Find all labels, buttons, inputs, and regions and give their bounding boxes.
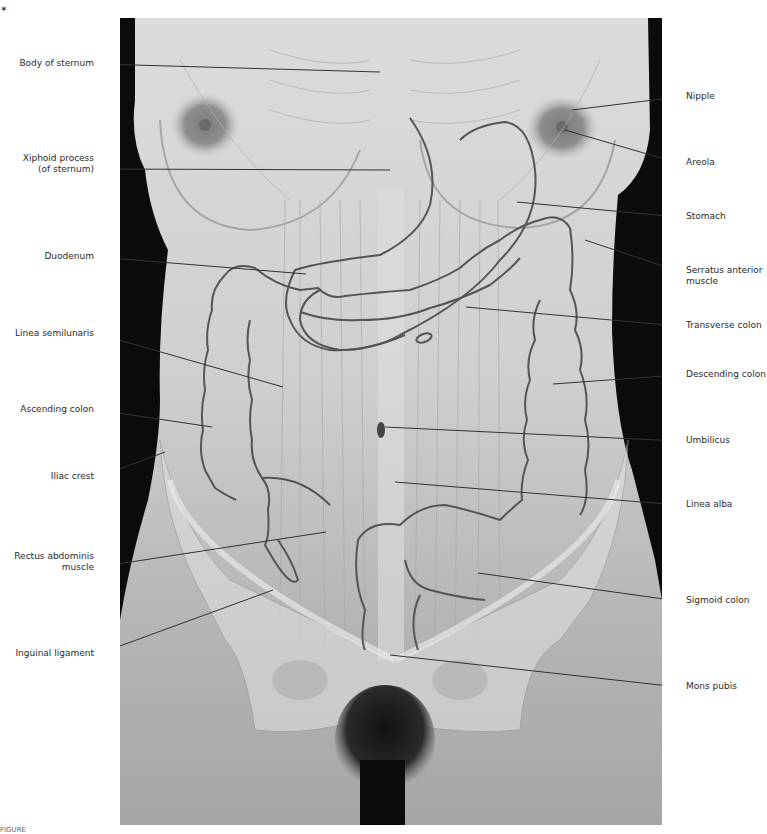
umbilicus-mark bbox=[377, 422, 385, 438]
torso-illustration bbox=[120, 18, 662, 825]
anatomy-figure: ✶ bbox=[0, 0, 767, 834]
label-transverse-colon: Transverse colon bbox=[686, 320, 762, 331]
label-serratus-anterior: Serratus anterior muscle bbox=[686, 265, 762, 287]
figure-corner-mark: ✶ bbox=[0, 4, 8, 14]
label-ascending-colon: Ascending colon bbox=[20, 404, 94, 415]
label-mons-pubis: Mons pubis bbox=[686, 681, 737, 692]
label-inguinal-ligament: Inguinal ligament bbox=[15, 648, 94, 659]
label-umbilicus: Umbilicus bbox=[686, 435, 730, 446]
label-nipple: Nipple bbox=[686, 91, 715, 102]
label-linea-alba: Linea alba bbox=[686, 499, 732, 510]
label-sigmoid-colon: Sigmoid colon bbox=[686, 595, 749, 606]
figure-caption-fragment: FIGURE bbox=[0, 826, 26, 834]
label-xiphoid-process: Xiphoid process (of sternum) bbox=[23, 153, 94, 175]
label-duodenum: Duodenum bbox=[44, 251, 94, 262]
label-linea-semilunaris: Linea semilunaris bbox=[15, 328, 94, 339]
label-areola: Areola bbox=[686, 157, 715, 168]
label-body-of-sternum: Body of sternum bbox=[19, 58, 94, 69]
label-rectus-abdominis: Rectus abdominis muscle bbox=[14, 551, 94, 573]
label-stomach: Stomach bbox=[686, 211, 726, 222]
label-descending-colon: Descending colon bbox=[686, 369, 766, 380]
label-iliac-crest: Iliac crest bbox=[51, 471, 94, 482]
